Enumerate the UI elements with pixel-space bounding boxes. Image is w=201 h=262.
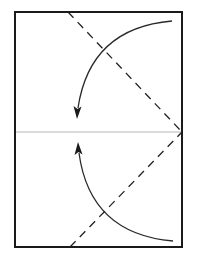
paper-outline — [15, 12, 182, 247]
fold-diagram — [0, 0, 201, 262]
